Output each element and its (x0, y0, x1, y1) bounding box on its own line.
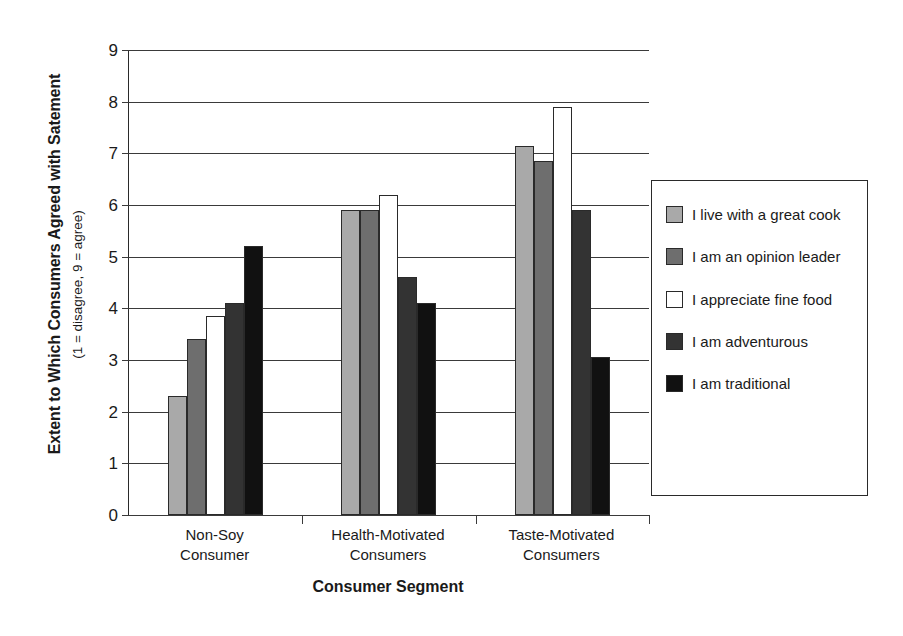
plot-area: 0123456789 (128, 50, 649, 516)
x-axis-category-label-line: Health-Motivated (301, 525, 474, 545)
bar[interactable] (360, 210, 379, 515)
y-axis-tick-label: 1 (109, 455, 118, 472)
x-axis-category-label: Taste-MotivatedConsumers (475, 525, 648, 565)
bar[interactable] (168, 396, 187, 515)
legend-item[interactable]: I am an opinion leader (666, 247, 857, 267)
legend-swatch-icon (666, 291, 683, 308)
y-axis-title: Extent to Which Consumers Agreed with Sa… (46, 4, 64, 524)
y-axis-title-group: Extent to Which Consumers Agreed with Sa… (0, 0, 92, 530)
y-axis-tick-label: 0 (109, 507, 118, 524)
x-axis-category-label-line: Consumers (301, 545, 474, 565)
legend-item-list: I live with a great cookI am an opinion … (666, 205, 857, 394)
legend-item-label: I live with a great cook (692, 205, 840, 225)
legend-swatch-icon (666, 248, 683, 265)
chart-canvas: Extent to Which Consumers Agreed with Sa… (0, 0, 903, 636)
bar-group (129, 50, 302, 515)
x-axis-tick-mark (649, 515, 650, 524)
x-axis-category-labels: Non-SoyConsumerHealth-MotivatedConsumers… (128, 525, 648, 565)
x-axis-category-label-line: Consumer (128, 545, 301, 565)
bar[interactable] (187, 339, 206, 515)
legend-swatch-icon (666, 375, 683, 392)
legend-item-label: I am an opinion leader (692, 247, 840, 267)
y-axis-tick-mark (122, 308, 129, 309)
y-axis-tick-label: 6 (109, 197, 118, 214)
x-axis-title: Consumer Segment (128, 578, 648, 596)
y-axis-tick-label: 8 (109, 93, 118, 110)
bar-group (302, 50, 475, 515)
bar[interactable] (341, 210, 360, 515)
bar[interactable] (534, 161, 553, 515)
y-axis-tick-mark (122, 515, 129, 516)
legend-item[interactable]: I appreciate fine food (666, 290, 857, 310)
y-axis-subtitle: (1 = disagree, 9 = agree) (70, 25, 85, 545)
bar[interactable] (515, 146, 534, 515)
bar[interactable] (591, 357, 610, 515)
y-axis-tick-mark (122, 463, 129, 464)
legend-item-label: I am traditional (692, 374, 790, 394)
bar-groups (129, 50, 649, 515)
y-axis-tick-label: 2 (109, 403, 118, 420)
x-axis-category-label-line: Non-Soy (128, 525, 301, 545)
x-axis-category-label: Non-SoyConsumer (128, 525, 301, 565)
bar[interactable] (553, 107, 572, 515)
y-axis-tick-mark (122, 102, 129, 103)
legend-item-label: I appreciate fine food (692, 290, 832, 310)
x-axis-category-label: Health-MotivatedConsumers (301, 525, 474, 565)
bar[interactable] (572, 210, 591, 515)
bar[interactable] (206, 316, 225, 515)
legend-swatch-icon (666, 206, 683, 223)
y-axis-tick-mark (122, 205, 129, 206)
y-axis-tick-label: 3 (109, 352, 118, 369)
legend-item[interactable]: I am traditional (666, 374, 857, 394)
x-axis-tick-mark (476, 515, 477, 524)
bar[interactable] (398, 277, 417, 515)
y-axis-tick-mark (122, 153, 129, 154)
y-axis-tick-label: 7 (109, 145, 118, 162)
y-axis-tick-mark (122, 412, 129, 413)
legend-item[interactable]: I am adventurous (666, 332, 857, 352)
y-axis-tick-label: 4 (109, 300, 118, 317)
y-axis-tick-mark (122, 257, 129, 258)
x-axis-tick-mark (302, 515, 303, 524)
y-axis-tick-label: 5 (109, 248, 118, 265)
chart-legend: I live with a great cookI am an opinion … (651, 180, 868, 496)
x-axis-category-label-line: Taste-Motivated (475, 525, 648, 545)
bar-group (476, 50, 649, 515)
y-axis-tick-mark (122, 360, 129, 361)
legend-swatch-icon (666, 333, 683, 350)
gridline (129, 515, 649, 516)
bar[interactable] (417, 303, 436, 515)
legend-item-label: I am adventurous (692, 332, 808, 352)
bar[interactable] (225, 303, 244, 515)
bar[interactable] (379, 195, 398, 515)
y-axis-tick-mark (122, 50, 129, 51)
x-axis-category-label-line: Consumers (475, 545, 648, 565)
legend-item[interactable]: I live with a great cook (666, 205, 857, 225)
y-axis-tick-label: 9 (109, 42, 118, 59)
bar[interactable] (244, 246, 263, 515)
